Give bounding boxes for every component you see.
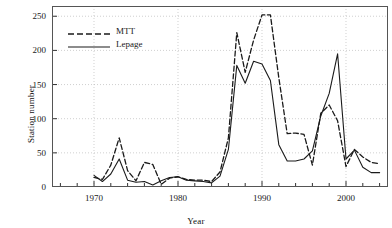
legend-item: Lepage [68,37,142,50]
chart-figure: Station number 050100150200250 197019801… [0,0,392,228]
solid-line-key [68,43,110,44]
x-tick-label: 1970 [85,193,103,203]
x-axis-title: Year [0,216,392,226]
x-tick-label: 2000 [337,193,355,203]
x-tick-label: 1980 [169,193,187,203]
x-tick-label: 1990 [253,193,271,203]
dashed-line-key [68,30,110,31]
legend-item: MTT [68,24,142,37]
legend-label-mtt: MTT [116,26,135,36]
legend-label-lepage: Lepage [116,39,142,49]
legend: MTT Lepage [68,24,142,50]
